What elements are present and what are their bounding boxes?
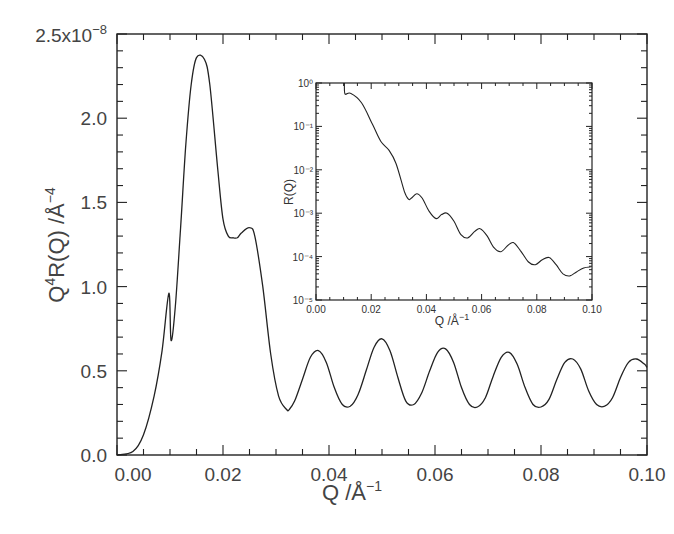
- inset-y-tick-label: 10⁻⁵: [293, 295, 313, 306]
- inset-y-tick-label: 10⁰: [298, 78, 313, 89]
- reflectivity-chart: 0.000.020.040.060.080.100.00.51.01.52.02…: [0, 0, 674, 534]
- inset-x-tick-label: 0.04: [417, 304, 437, 315]
- x-tick-label: 0.00: [115, 464, 152, 485]
- x-tick-label: 0.10: [629, 464, 666, 485]
- y-tick-label: 1.5: [81, 192, 107, 213]
- y-tick-label: 0.0: [81, 445, 107, 466]
- inset-plot-frame: [316, 83, 592, 300]
- inset-x-axis-label: Q /Å−1: [435, 312, 469, 328]
- x-tick-label: 0.06: [417, 464, 454, 485]
- inset-y-tick-label: 10⁻¹: [294, 121, 314, 132]
- inset-plot: 0.000.020.040.060.080.1010⁻⁵10⁻⁴10⁻³10⁻²…: [282, 78, 602, 328]
- inset-y-axis-label: R(Q): [282, 179, 296, 205]
- y-tick-label: 0.5: [81, 361, 107, 382]
- x-tick-label: 0.02: [205, 464, 242, 485]
- inset-x-tick-label: 0.08: [527, 304, 547, 315]
- inset-x-tick-label: 0.02: [361, 304, 381, 315]
- inset-y-tick-label: 10⁻⁴: [293, 252, 313, 263]
- inset-y-tick-label: 10⁻³: [294, 208, 314, 219]
- main-x-axis-label: Q /Å−1: [322, 478, 382, 505]
- x-tick-label: 0.08: [523, 464, 560, 485]
- y-tick-label: 1.0: [81, 277, 107, 298]
- y-tick-label: 2.0: [81, 108, 107, 129]
- inset-y-tick-label: 10⁻²: [294, 165, 314, 176]
- main-y-axis-label: Q4R(Q) /Å−4: [42, 187, 69, 303]
- inset-x-tick-label: 0.06: [472, 304, 492, 315]
- inset-x-tick-label: 0.10: [582, 304, 602, 315]
- y-tick-label-top: 2.5x10−8: [35, 22, 107, 46]
